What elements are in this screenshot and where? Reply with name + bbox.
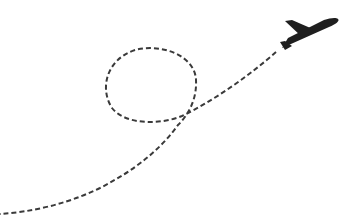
flight-scene <box>0 0 361 222</box>
dashed-flight-path <box>0 48 276 214</box>
illustration: airplane with dashed flight path loop <box>0 0 361 222</box>
airplane-icon <box>280 18 339 50</box>
